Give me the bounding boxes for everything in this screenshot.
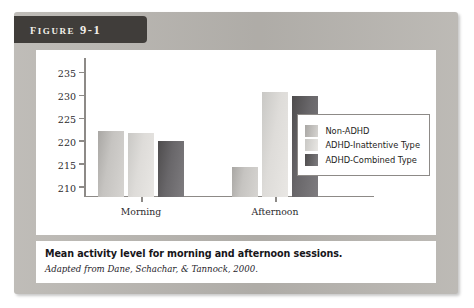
legend-item: ADHD-Combined Type: [305, 154, 420, 166]
bar-group-morning: [98, 64, 188, 197]
y-tick: [79, 95, 84, 97]
bar: [262, 92, 288, 197]
legend-label: ADHD-Inattentive Type: [325, 140, 420, 150]
legend-label: Non-ADHD: [325, 126, 369, 136]
legend-label: ADHD-Combined Type: [325, 155, 417, 165]
figure-card: Figure 9-1 210215220225230235 MorningAft…: [14, 12, 458, 294]
bar-chart: 210215220225230235 MorningAfternoon Non-…: [36, 50, 436, 235]
y-tick-label: 210: [58, 182, 76, 193]
y-tick-label: 230: [58, 91, 76, 102]
chart-legend: Non-ADHDADHD-Inattentive TypeADHD-Combin…: [297, 114, 430, 176]
bar: [232, 167, 258, 197]
x-axis-label: Afternoon: [252, 206, 299, 217]
legend-item: Non-ADHD: [305, 125, 420, 137]
chart-panel: 210215220225230235 MorningAfternoon Non-…: [36, 50, 436, 235]
y-axis-line: [84, 58, 86, 197]
y-tick-label: 235: [58, 68, 76, 79]
bar: [128, 133, 154, 197]
caption-title: Mean activity level for morning and afte…: [45, 247, 427, 260]
figure-number-tab: Figure 9-1: [14, 16, 147, 43]
y-tick: [79, 186, 84, 188]
legend-swatch: [305, 139, 318, 151]
legend-item: ADHD-Inattentive Type: [305, 139, 420, 151]
figure-number-label: Figure 9-1: [14, 21, 101, 38]
caption-source: Adapted from Dane, Schachar, & Tannock, …: [45, 264, 427, 275]
plot-area: 210215220225230235 MorningAfternoon: [84, 64, 286, 197]
x-axis-label: Morning: [121, 206, 161, 217]
x-tick: [141, 197, 143, 202]
legend-swatch: [305, 154, 318, 166]
bar: [98, 131, 124, 198]
y-tick: [79, 72, 84, 74]
y-tick: [79, 163, 84, 165]
x-tick: [275, 197, 277, 202]
y-tick-label: 215: [58, 159, 76, 170]
y-tick-label: 225: [58, 114, 76, 125]
y-tick-label: 220: [58, 136, 76, 147]
legend-swatch: [305, 125, 318, 137]
y-tick: [79, 118, 84, 120]
bar: [158, 141, 184, 197]
caption-block: Mean activity level for morning and afte…: [36, 241, 436, 283]
y-tick: [79, 140, 84, 142]
